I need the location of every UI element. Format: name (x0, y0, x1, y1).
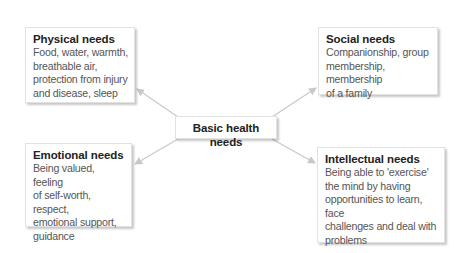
social-needs-box: Social needs Companionship, group member… (318, 27, 438, 95)
intellectual-needs-line: problems (325, 234, 438, 248)
intellectual-needs-box: Intellectual needs Being able to 'exerci… (317, 147, 445, 243)
physical-needs-line: and disease, sleep (33, 87, 128, 101)
social-needs-line: membership, membership (326, 60, 431, 87)
intellectual-needs-line: the mind by having (325, 180, 438, 194)
emotional-needs-line: guidance (33, 230, 125, 244)
arrow-to-emotional (135, 139, 178, 164)
emotional-needs-line: Being valued, feeling (33, 162, 125, 189)
social-needs-line: Companionship, group (326, 46, 431, 60)
arrow-to-physical (137, 89, 178, 117)
basic-health-needs-label: Basic health needs (176, 121, 276, 149)
basic-health-needs-box: Basic health needs (175, 116, 277, 139)
intellectual-needs-line: Being able to 'exercise' (325, 166, 438, 180)
physical-needs-box: Physical needs Food, water, warmth, brea… (25, 27, 135, 103)
physical-needs-line: Food, water, warmth, (33, 46, 128, 60)
arrow-to-intellectual (272, 139, 315, 163)
physical-needs-line: breathable air, (33, 60, 128, 74)
emotional-needs-line: emotional support, (33, 216, 125, 230)
physical-needs-line: protection from injury (33, 73, 128, 87)
social-needs-line: of a family (326, 87, 431, 101)
social-needs-title: Social needs (326, 32, 431, 46)
emotional-needs-line: of self-worth, respect, (33, 189, 125, 216)
intellectual-needs-line: challenges and deal with (325, 220, 438, 234)
intellectual-needs-line: opportunities to learn, face (325, 193, 438, 220)
physical-needs-title: Physical needs (33, 32, 128, 46)
intellectual-needs-title: Intellectual needs (325, 152, 438, 166)
arrow-to-social (272, 88, 316, 117)
emotional-needs-box: Emotional needs Being valued, feeling of… (25, 143, 132, 227)
emotional-needs-title: Emotional needs (33, 148, 125, 162)
